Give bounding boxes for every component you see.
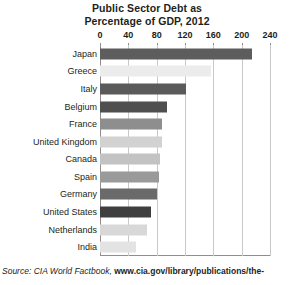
bar-row: Belgium bbox=[0, 98, 294, 116]
bar bbox=[100, 66, 211, 77]
x-tick-label-240: 240 bbox=[262, 30, 277, 40]
bar bbox=[100, 48, 252, 59]
category-label: Belgium bbox=[64, 102, 97, 112]
chart-title-line-2: Percentage of GDP, 2012 bbox=[0, 15, 294, 28]
bar bbox=[100, 83, 186, 94]
x-tick-label-200: 200 bbox=[234, 30, 249, 40]
bar bbox=[100, 224, 147, 235]
bar bbox=[100, 154, 160, 165]
category-label: Italy bbox=[80, 84, 97, 94]
bar bbox=[100, 136, 162, 147]
bar-row: Germany bbox=[0, 186, 294, 204]
x-axis-ticks: 04080120160200240 bbox=[0, 30, 294, 45]
bar-row: India bbox=[0, 238, 294, 256]
bar-row: United States bbox=[0, 203, 294, 221]
chart-title-line-1: Public Sector Debt as bbox=[0, 2, 294, 15]
x-tick-label-80: 80 bbox=[152, 30, 162, 40]
bar bbox=[100, 101, 167, 112]
category-label: France bbox=[69, 119, 97, 129]
bar bbox=[100, 207, 151, 218]
x-tick-label-120: 120 bbox=[177, 30, 192, 40]
bar-rows: JapanGreeceItalyBelgiumFranceUnited King… bbox=[0, 45, 294, 256]
category-label: India bbox=[77, 242, 97, 252]
category-label: Greece bbox=[67, 66, 97, 76]
category-label: Canada bbox=[65, 154, 97, 164]
chart-page: Public Sector Debt as Percentage of GDP,… bbox=[0, 0, 294, 285]
category-label: Spain bbox=[74, 172, 97, 182]
bar-row: Italy bbox=[0, 80, 294, 98]
category-label: Netherlands bbox=[48, 225, 97, 235]
source-url: www.cia.gov/library/publications/the- bbox=[114, 266, 264, 276]
chart-title: Public Sector Debt as Percentage of GDP,… bbox=[0, 2, 294, 28]
bar bbox=[100, 171, 159, 182]
source-prefix: Source: CIA World Factbook, bbox=[2, 266, 112, 276]
bar-row: Netherlands bbox=[0, 221, 294, 239]
category-label: Germany bbox=[60, 189, 97, 199]
bar-row: France bbox=[0, 115, 294, 133]
source-note: Source: CIA World Factbook, www.cia.gov/… bbox=[2, 266, 294, 277]
bar bbox=[100, 242, 136, 253]
bar-row: Canada bbox=[0, 151, 294, 169]
category-label: United Kingdom bbox=[33, 137, 97, 147]
bar bbox=[100, 119, 162, 130]
category-label: United States bbox=[43, 207, 97, 217]
category-label: Japan bbox=[72, 49, 97, 59]
bar bbox=[100, 189, 157, 200]
bar-row: Japan bbox=[0, 45, 294, 63]
x-tick-label-0: 0 bbox=[97, 30, 102, 40]
bar-row: Greece bbox=[0, 63, 294, 81]
x-tick-label-160: 160 bbox=[206, 30, 221, 40]
x-tick-label-40: 40 bbox=[123, 30, 133, 40]
bar-row: Spain bbox=[0, 168, 294, 186]
bar-row: United Kingdom bbox=[0, 133, 294, 151]
